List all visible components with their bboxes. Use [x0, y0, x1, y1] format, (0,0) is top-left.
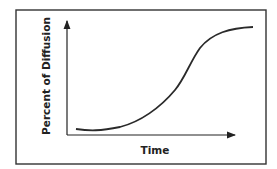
x-axis-label: Time: [141, 144, 170, 156]
diffusion-chart: Percent of Diffusion Time: [0, 0, 277, 169]
y-axis-label: Percent of Diffusion: [40, 17, 52, 135]
chart-frame: [16, 10, 266, 164]
